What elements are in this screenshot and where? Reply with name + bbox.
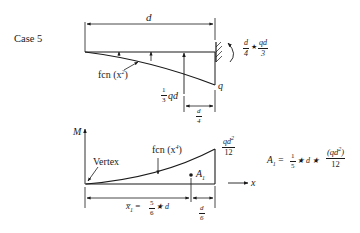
m-axis-label: M: [73, 127, 81, 137]
area-formula-coefficient: 1 5: [290, 153, 296, 170]
beam-diagram-case-5: Case 5 d fcn (x2) 1 3 qd d 4 q d 4 ★ qd …: [0, 0, 360, 233]
centroid-dot: [189, 173, 193, 177]
load-end-label: q: [218, 81, 223, 91]
moment-arrow: [228, 43, 234, 62]
xbar-fraction: 5 6: [149, 200, 155, 217]
vertex-arrow: [88, 167, 98, 181]
bottom-curve-label: fcn (x4): [152, 145, 182, 155]
area-formula-fraction: (qd2) 12: [326, 148, 345, 168]
area-formula-lhs: A1 =: [267, 156, 284, 166]
peak-value-fraction: qd2 12: [222, 138, 235, 157]
diagram-lines: [0, 0, 360, 233]
top-curve-label: fcn (x2): [98, 70, 128, 80]
x-axis-label: x: [251, 178, 255, 188]
case-label: Case 5: [14, 34, 42, 45]
bottom-offset-fraction: d 6: [199, 205, 205, 222]
centroid-label: A1: [196, 169, 205, 179]
top-offset-fraction: d 4: [196, 108, 202, 125]
vertex-label: Vertex: [93, 157, 119, 167]
moment-fraction-1: d 4: [243, 39, 249, 58]
resultant-coefficient: 1 3: [161, 87, 167, 104]
resultant-qd: qd: [168, 91, 178, 101]
moment-star: ★: [251, 44, 257, 51]
span-label: d: [146, 12, 152, 23]
area-formula-mid: ★ d ★: [297, 157, 319, 165]
xbar-label: x̅1 =: [126, 202, 140, 211]
moment-fraction-2: qd 3: [258, 39, 268, 58]
wall-hatching: [216, 42, 222, 62]
xbar-tail: ★ d: [156, 203, 169, 211]
